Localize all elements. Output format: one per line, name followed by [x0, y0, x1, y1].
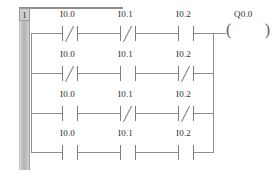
contact-I0-2-no[interactable]: [178, 26, 194, 41]
network-number-label: 1: [19, 8, 30, 21]
wire-segment-to-bus: [194, 73, 214, 74]
contact-left-bar-icon: [120, 66, 121, 81]
contact-left-bar-icon: [178, 106, 179, 121]
contact-left-bar-icon: [178, 145, 179, 160]
contact-left-bar-icon: [178, 26, 179, 41]
contact-negation-slash-icon: [181, 66, 190, 82]
contact-negation-slash-icon: [123, 106, 132, 122]
contact-I0-1-nc[interactable]: [120, 26, 136, 41]
wire-segment: [78, 73, 120, 74]
contact-I0-0-no[interactable]: [62, 106, 78, 121]
wire-segment: [31, 33, 62, 34]
contact-operand-label: I0.0: [60, 49, 75, 59]
contact-operand-label: I0.2: [176, 9, 191, 19]
contact-left-bar-icon: [120, 145, 121, 160]
rung-2: [0, 62, 278, 84]
wire-segment-to-bus: [194, 113, 214, 114]
contact-negation-slash-icon: [181, 106, 190, 122]
contact-left-bar-icon: [62, 145, 63, 160]
contact-operand-label: I0.0: [60, 89, 75, 99]
contact-operand-label: I0.1: [118, 89, 133, 99]
right-vertical-bus: [213, 33, 214, 152]
contact-operand-label: I0.0: [60, 9, 75, 19]
wire-segment: [78, 152, 120, 153]
contact-I0-0-nc[interactable]: [62, 26, 78, 41]
contact-I0-2-nc[interactable]: [178, 106, 194, 121]
contact-left-bar-icon: [120, 26, 121, 41]
contact-negation-slash-icon: [123, 26, 132, 42]
contact-negation-slash-icon: [65, 66, 74, 82]
coil-close-paren-icon: ): [265, 21, 270, 39]
contact-operand-label: I0.2: [176, 89, 191, 99]
contact-operand-label: I0.1: [118, 9, 133, 19]
contact-I0-1-no[interactable]: [120, 145, 136, 160]
ladder-diagram-canvas: 1 I0.0I0.1I0.2I0.0I0.1I0.2I0.0I0.1I0.2I0…: [0, 0, 278, 180]
wire-segment: [31, 113, 62, 114]
coil-open-paren-icon: (: [226, 21, 231, 39]
wire-segment: [31, 152, 62, 153]
contact-left-bar-icon: [178, 66, 179, 81]
wire-segment-to-coil: [213, 33, 226, 34]
left-vertical-bus: [31, 33, 32, 152]
contact-I0-0-no[interactable]: [62, 145, 78, 160]
wire-segment: [31, 73, 62, 74]
contact-operand-label: I0.1: [118, 49, 133, 59]
wire-segment-to-bus: [194, 152, 214, 153]
contact-I0-2-no[interactable]: [178, 145, 194, 160]
contact-operand-label: I0.2: [176, 128, 191, 138]
rung-3: [0, 102, 278, 124]
contact-left-bar-icon: [62, 66, 63, 81]
contact-operand-label: I0.1: [118, 128, 133, 138]
contact-I0-2-nc[interactable]: [178, 66, 194, 81]
wire-segment: [136, 73, 178, 74]
wire-segment: [136, 113, 178, 114]
contact-I0-0-nc[interactable]: [62, 66, 78, 81]
rung-4: [0, 141, 278, 163]
wire-segment: [78, 33, 120, 34]
wire-segment: [136, 152, 178, 153]
contact-left-bar-icon: [120, 106, 121, 121]
contact-I0-1-no[interactable]: [120, 66, 136, 81]
output-coil-Q0.0[interactable]: ( ): [226, 24, 270, 42]
contact-negation-slash-icon: [65, 26, 74, 42]
contact-left-bar-icon: [62, 26, 63, 41]
contact-left-bar-icon: [62, 106, 63, 121]
wire-segment: [78, 113, 120, 114]
contact-I0-1-nc[interactable]: [120, 106, 136, 121]
coil-operand-label: Q0.0: [234, 9, 253, 19]
contact-operand-label: I0.0: [60, 128, 75, 138]
wire-segment-to-bus: [194, 33, 214, 34]
wire-segment: [136, 33, 178, 34]
contact-operand-label: I0.2: [176, 49, 191, 59]
